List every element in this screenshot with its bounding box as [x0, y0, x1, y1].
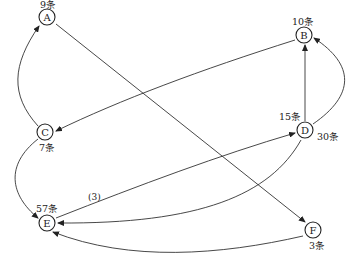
edge-c-to-e — [15, 139, 38, 218]
edge-f-to-e — [53, 232, 303, 252]
svg-text:F: F — [310, 225, 317, 236]
node-d-count-top: 15条 — [279, 111, 301, 122]
svg-text:C: C — [41, 127, 49, 138]
node-e: E 57条 — [36, 203, 58, 231]
edge-c-to-a — [18, 26, 39, 126]
node-d: D 15条 30条 — [279, 111, 339, 142]
node-a: A 9条 — [39, 0, 56, 25]
node-a-count: 9条 — [40, 0, 56, 10]
node-f-count: 3条 — [309, 240, 325, 251]
node-f: F 3条 — [305, 222, 325, 251]
flow-diagram: (3) A 9条 B 10条 C 7条 D 15条 30条 E 57条 F 3条 — [0, 0, 361, 269]
node-b-count: 10条 — [292, 16, 314, 27]
edge-b-to-c — [56, 40, 295, 131]
node-d-count-right: 30条 — [317, 131, 339, 142]
svg-text:D: D — [301, 125, 309, 136]
edge-label-e-to-d: (3) — [88, 192, 101, 202]
node-c-count: 7条 — [39, 142, 55, 153]
svg-text:E: E — [43, 218, 50, 229]
node-e-count: 57条 — [36, 203, 58, 214]
svg-text:B: B — [300, 30, 307, 41]
svg-text:A: A — [42, 12, 51, 23]
edge-d-to-b-curve — [313, 38, 345, 124]
node-b: B 10条 — [292, 16, 314, 43]
edge-e-to-d — [56, 133, 295, 218]
node-c: C 7条 — [37, 124, 55, 153]
edge-d-to-e — [58, 140, 301, 223]
